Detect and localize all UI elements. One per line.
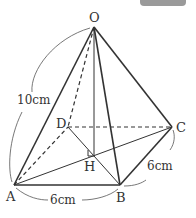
arc-AB-left bbox=[16, 188, 48, 200]
edge-BC bbox=[120, 127, 172, 185]
vertex-label-H: H bbox=[84, 159, 95, 174]
edge-OC bbox=[94, 27, 172, 127]
edge-OB bbox=[94, 27, 120, 185]
edge-OD bbox=[68, 27, 94, 127]
dimension-AB: 6cm bbox=[50, 193, 76, 207]
vertex-label-D: D bbox=[56, 116, 66, 131]
edge-AD bbox=[14, 127, 68, 185]
vertex-label-C: C bbox=[176, 120, 186, 135]
arc-BC-upper bbox=[170, 130, 174, 150]
arc-OA bbox=[32, 28, 90, 92]
pyramid-diagram: O A B C D H 10cm 6cm 6cm bbox=[0, 0, 196, 218]
dimension-BC: 6cm bbox=[147, 159, 173, 173]
vertex-label-O: O bbox=[89, 10, 100, 25]
vertex-label-A: A bbox=[5, 189, 16, 204]
arc-AB-right bbox=[82, 189, 118, 200]
arc-BC-lower bbox=[124, 180, 146, 186]
vertex-label-B: B bbox=[116, 190, 126, 205]
dimension-OA: 10cm bbox=[17, 93, 51, 107]
